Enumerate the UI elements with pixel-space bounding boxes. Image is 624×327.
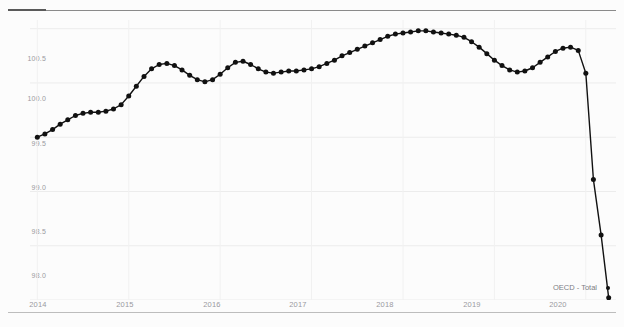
data-point[interactable] xyxy=(606,295,611,300)
data-point[interactable] xyxy=(157,62,162,67)
series-markers-oecd-total xyxy=(35,28,611,300)
x-tick-label-2015: 2015 xyxy=(116,300,134,309)
data-point[interactable] xyxy=(210,77,215,82)
data-point[interactable] xyxy=(492,58,497,63)
data-point[interactable] xyxy=(583,71,588,76)
data-point[interactable] xyxy=(195,77,200,82)
gridlines xyxy=(30,20,616,300)
data-point[interactable] xyxy=(385,34,390,39)
data-point[interactable] xyxy=(599,232,604,237)
top-divider-accent xyxy=(8,9,46,11)
data-point[interactable] xyxy=(309,66,314,71)
data-point[interactable] xyxy=(461,35,466,40)
data-point[interactable] xyxy=(263,70,268,75)
data-point[interactable] xyxy=(164,61,169,66)
data-point[interactable] xyxy=(446,32,451,37)
data-point[interactable] xyxy=(126,93,131,98)
data-point[interactable] xyxy=(142,74,147,79)
x-tick-label-2017: 2017 xyxy=(289,300,307,309)
data-point[interactable] xyxy=(134,84,139,89)
data-point[interactable] xyxy=(591,177,596,182)
data-point[interactable] xyxy=(81,111,86,116)
data-point[interactable] xyxy=(378,37,383,42)
chart-legend[interactable]: OECD - Total xyxy=(553,283,610,292)
data-point[interactable] xyxy=(35,135,40,140)
data-point[interactable] xyxy=(484,51,489,56)
x-axis-line xyxy=(8,312,616,313)
data-point[interactable] xyxy=(553,49,558,54)
chart-screenshot: 100.5 100.0 99.5 99.0 98.5 98.0 2014 201… xyxy=(0,0,624,327)
data-point[interactable] xyxy=(103,109,108,114)
data-point[interactable] xyxy=(576,48,581,53)
data-point[interactable] xyxy=(286,69,291,74)
data-point[interactable] xyxy=(172,63,177,68)
data-point[interactable] xyxy=(111,106,116,111)
data-point[interactable] xyxy=(202,79,207,84)
data-point[interactable] xyxy=(469,39,474,44)
data-point[interactable] xyxy=(301,67,306,72)
data-point[interactable] xyxy=(545,54,550,59)
data-point[interactable] xyxy=(180,67,185,72)
data-point[interactable] xyxy=(271,71,276,76)
x-tick-label-2018: 2018 xyxy=(376,300,394,309)
plot-area xyxy=(30,20,616,300)
data-point[interactable] xyxy=(317,64,322,69)
data-point[interactable] xyxy=(408,29,413,34)
data-point[interactable] xyxy=(119,102,124,107)
data-point[interactable] xyxy=(241,59,246,64)
data-point[interactable] xyxy=(187,73,192,78)
data-point[interactable] xyxy=(530,65,535,70)
data-point[interactable] xyxy=(500,63,505,68)
legend-label: OECD - Total xyxy=(553,283,597,292)
data-point[interactable] xyxy=(332,58,337,63)
data-point[interactable] xyxy=(416,28,421,33)
x-tick-label-2014: 2014 xyxy=(29,300,47,309)
data-point[interactable] xyxy=(96,110,101,115)
x-tick-label-2020: 2020 xyxy=(549,300,567,309)
data-point[interactable] xyxy=(507,67,512,72)
data-point[interactable] xyxy=(400,31,405,36)
data-point[interactable] xyxy=(294,69,299,74)
line-chart-svg xyxy=(30,20,616,300)
data-point[interactable] xyxy=(439,31,444,36)
data-point[interactable] xyxy=(423,28,428,33)
data-point[interactable] xyxy=(393,32,398,37)
data-point[interactable] xyxy=(431,29,436,34)
data-point[interactable] xyxy=(218,72,223,77)
data-point[interactable] xyxy=(522,69,527,74)
data-point[interactable] xyxy=(362,44,367,49)
x-tick-label-2016: 2016 xyxy=(203,300,221,309)
data-point[interactable] xyxy=(42,131,47,136)
data-point[interactable] xyxy=(279,70,284,75)
top-divider xyxy=(8,10,616,11)
data-point[interactable] xyxy=(355,47,360,52)
data-point[interactable] xyxy=(538,60,543,65)
data-point[interactable] xyxy=(88,110,93,115)
x-tick-label-2019: 2019 xyxy=(463,300,481,309)
data-point[interactable] xyxy=(225,65,230,70)
data-point[interactable] xyxy=(324,61,329,66)
legend-marker-icon xyxy=(606,286,610,290)
data-point[interactable] xyxy=(477,45,482,50)
data-point[interactable] xyxy=(454,33,459,38)
data-point[interactable] xyxy=(560,46,565,51)
data-point[interactable] xyxy=(50,127,55,132)
data-point[interactable] xyxy=(58,122,63,127)
data-point[interactable] xyxy=(65,117,70,122)
data-point[interactable] xyxy=(347,50,352,55)
data-point[interactable] xyxy=(340,53,345,58)
data-point[interactable] xyxy=(256,66,261,71)
data-point[interactable] xyxy=(149,66,154,71)
data-point[interactable] xyxy=(515,70,520,75)
data-point[interactable] xyxy=(568,45,573,50)
data-point[interactable] xyxy=(370,40,375,45)
data-point[interactable] xyxy=(248,62,253,67)
data-point[interactable] xyxy=(73,113,78,118)
data-point[interactable] xyxy=(233,60,238,65)
